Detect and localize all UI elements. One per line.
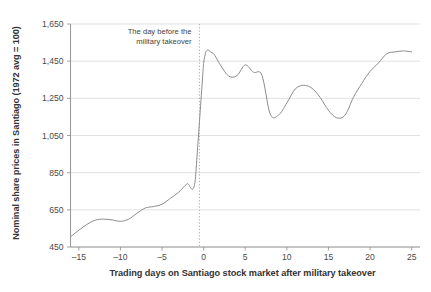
x-tick-label: 5 bbox=[243, 252, 248, 262]
plot-area: 4506508501,0501,2501,4501,650 –15–10–505… bbox=[0, 0, 431, 292]
y-tick-label: 1,650 bbox=[42, 19, 64, 29]
annotation-line-1: The day before the bbox=[128, 27, 192, 36]
y-tick-labels: 4506508501,0501,2501,4501,650 bbox=[42, 19, 64, 252]
x-tick-labels: –15–10–50510152025 bbox=[72, 252, 417, 262]
x-tick-label: –10 bbox=[113, 252, 128, 262]
y-tick-label: 650 bbox=[49, 205, 64, 215]
x-tick-label: 15 bbox=[324, 252, 334, 262]
x-tick-label: –15 bbox=[72, 252, 87, 262]
y-tick-label: 1,450 bbox=[42, 56, 64, 66]
chart-container: Nominal share prices in Santiago (1972 a… bbox=[0, 0, 431, 292]
y-tick-label: 1,050 bbox=[42, 131, 64, 141]
x-tick-label: 20 bbox=[365, 252, 375, 262]
x-tick-label: 25 bbox=[407, 252, 417, 262]
gridlines bbox=[71, 24, 421, 247]
series-line bbox=[71, 50, 412, 237]
x-tick-label: 0 bbox=[201, 252, 206, 262]
y-tick-label: 1,250 bbox=[42, 93, 64, 103]
axis-lines bbox=[67, 24, 420, 251]
x-tick-label: –5 bbox=[157, 252, 167, 262]
y-tick-label: 450 bbox=[49, 242, 64, 252]
x-tick-label: 10 bbox=[282, 252, 292, 262]
annotation-line-2: military takeover bbox=[136, 37, 192, 46]
data-series-layer bbox=[71, 50, 412, 237]
y-tick-label: 850 bbox=[49, 168, 64, 178]
